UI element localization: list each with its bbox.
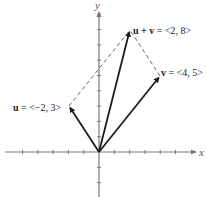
label-u: u = <−2, 3> (13, 102, 61, 113)
x-axis-label: x (198, 146, 204, 158)
vector-addition-diagram: x y u + v = <2, 8> v = <4, 5> u = <− (0, 0, 207, 197)
x-axis: x (5, 146, 204, 158)
label-u-plus-v: u + v = <2, 8> (133, 25, 192, 36)
parallelogram-dashed-lines (69, 30, 160, 106)
y-axis: y (94, 0, 101, 197)
label-v: v = <4, 5> (161, 67, 203, 78)
vector-u-arrow (70, 108, 99, 153)
dashed-v-to-sum (130, 30, 160, 76)
y-axis-label: y (94, 0, 100, 11)
